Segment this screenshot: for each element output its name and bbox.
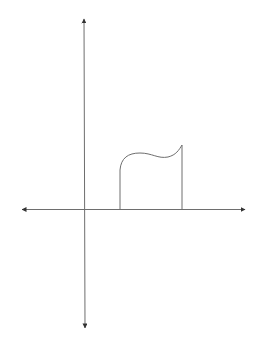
function-curve: [120, 145, 182, 170]
y-axis: [84, 19, 85, 328]
diagram-canvas: [0, 0, 267, 347]
